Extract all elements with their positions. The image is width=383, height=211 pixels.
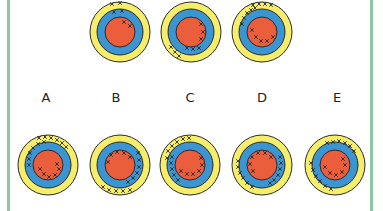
option-target-b[interactable] (90, 135, 150, 195)
inner-disc (105, 17, 135, 47)
sequence-target-1 (90, 1, 150, 62)
inner-disc (105, 150, 135, 180)
sequence-target-2 (161, 2, 221, 62)
option-target-d[interactable] (232, 135, 292, 195)
option-target-c[interactable] (160, 135, 220, 195)
question-sequence-row (90, 1, 292, 62)
sequence-target-3 (232, 2, 292, 62)
inner-disc (175, 150, 205, 180)
option-label-b: B (106, 90, 126, 105)
inner-disc (176, 17, 206, 47)
option-label-a: A (36, 90, 56, 105)
option-target-a[interactable] (18, 135, 78, 195)
puzzle-board (0, 0, 383, 211)
answer-options-row (18, 135, 365, 195)
option-label-e: E (327, 90, 347, 105)
option-label-d: D (252, 90, 272, 105)
option-label-c: C (180, 90, 200, 105)
option-target-e[interactable] (305, 135, 365, 195)
